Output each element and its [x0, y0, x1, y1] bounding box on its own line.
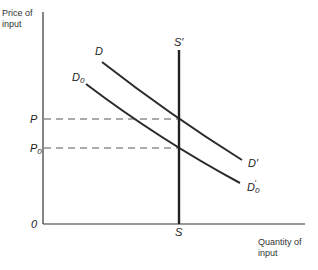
- price-p0-label: P0: [30, 142, 42, 156]
- curve-d0-label: D0: [72, 71, 85, 85]
- curve-d0-prime-label: D0′: [247, 178, 260, 195]
- economics-diagram: Price of input Quantity of input 0 P P0 …: [0, 0, 318, 270]
- curve-d-label: D: [95, 45, 103, 57]
- origin-label: 0: [31, 218, 38, 230]
- x-axis-label-line1: Quantity of: [258, 237, 302, 247]
- supply-bottom-label: S: [175, 226, 183, 238]
- price-p-label: P: [30, 113, 38, 125]
- y-axis-label-line1: Price of: [2, 8, 33, 18]
- x-axis-label-line2: input: [258, 248, 278, 258]
- y-axis-label-line2: input: [2, 19, 22, 29]
- supply-top-label: S′: [174, 36, 184, 48]
- demand-curve-d0: [86, 84, 240, 183]
- curve-d-prime-label: D′: [248, 157, 259, 169]
